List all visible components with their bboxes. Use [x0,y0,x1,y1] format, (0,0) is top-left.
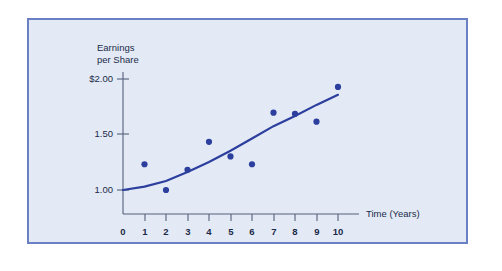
data-point [249,161,255,167]
data-point [227,153,233,159]
x-tick-label-0: 0 [120,226,125,237]
x-tick-label-7: 7 [271,226,276,237]
y-axis-label-line2: per Share [97,54,139,65]
x-tick-label-8: 8 [292,226,297,237]
y-tick-label-2-00: $2.00 [89,73,113,84]
data-point [313,119,319,125]
page-canvas: Earnings per Share $2.00 1.50 1.00 [0,0,502,271]
x-tick-label-1: 1 [142,226,148,237]
x-tick-label-2: 2 [163,226,168,237]
y-axis-label-line1: Earnings [97,42,135,53]
trend-curve [123,95,338,190]
x-axis-label: Time (Years) [366,208,420,219]
data-point [335,84,341,90]
y-tick-label-1-00: 1.00 [95,184,114,195]
data-point [141,161,147,167]
data-point-group [141,84,341,193]
x-tick-label-6: 6 [249,226,254,237]
earnings-per-share-scatter-chart: Earnings per Share $2.00 1.50 1.00 [29,20,470,246]
x-tick-label-4: 4 [206,226,212,237]
data-point [270,110,276,116]
x-tick-label-10: 10 [333,226,344,237]
data-point [292,111,298,117]
x-tick-label-3: 3 [185,226,190,237]
figure-panel: Earnings per Share $2.00 1.50 1.00 [27,18,468,244]
data-point [206,139,212,145]
x-tick-label-9: 9 [314,226,319,237]
y-tick-label-1-50: 1.50 [95,128,114,139]
data-point [163,187,169,193]
data-point [184,167,190,173]
x-tick-label-5: 5 [228,226,234,237]
chart-plot-area: Earnings per Share $2.00 1.50 1.00 [29,20,470,246]
